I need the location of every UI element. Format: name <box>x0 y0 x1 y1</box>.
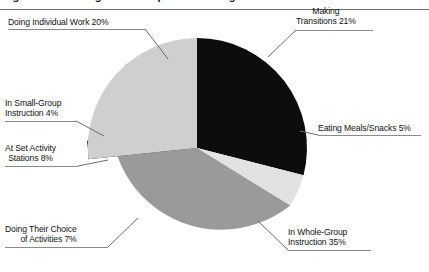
leader-underline-their-choice <box>5 247 108 248</box>
pie-slice-individual-work[interactable] <box>88 38 197 159</box>
leader-underline-making-transitions <box>296 30 373 31</box>
pie-label-small-group-line1: In Small-Group <box>5 98 61 108</box>
leader-underline-individual-work <box>8 29 145 30</box>
pie-label-individual-work-line1: Doing Individual Work 20% <box>8 17 109 27</box>
pie-label-whole-group-line1: In Whole-Group <box>288 227 347 237</box>
leader-underline-set-activity <box>5 166 78 167</box>
leader-line-whole-group <box>258 221 288 250</box>
pie-label-making-transitions-line1: Making <box>296 6 356 16</box>
leader-underline-whole-group <box>288 250 371 251</box>
pie-label-set-activity-line2: Stations 8% <box>5 153 56 163</box>
leader-line-making-transitions <box>268 30 296 57</box>
pie-label-small-group-line2: Instruction 4% <box>5 108 61 118</box>
pie-label-small-group: In Small-Group Instruction 4% <box>5 98 61 119</box>
leader-underline-eating-meals <box>318 135 421 136</box>
pie-label-set-activity: At Set Activity Stations 8% <box>5 143 56 164</box>
pie-label-whole-group: In Whole-Group Instruction 35% <box>288 227 347 248</box>
pie-label-their-choice-line1: Doing Their Choice <box>5 224 77 234</box>
pie-label-individual-work: Doing Individual Work 20% <box>8 17 109 27</box>
pie-label-set-activity-line1: At Set Activity <box>5 143 56 153</box>
pie-label-whole-group-line2: Instruction 35% <box>288 237 347 247</box>
pie-label-eating-meals: Eating Meals/Snacks 5% <box>318 123 411 133</box>
leader-underline-small-group <box>5 121 76 122</box>
pie-label-making-transitions: Making Transitions 21% <box>296 6 356 27</box>
leader-line-set-activity <box>78 160 108 166</box>
pie-label-eating-meals-line1: Eating Meals/Snacks 5% <box>318 123 411 133</box>
pie-label-making-transitions-line2: Transitions 21% <box>296 16 356 26</box>
pie-label-their-choice: Doing Their Choice of Activities 7% <box>5 224 77 245</box>
pie-label-their-choice-line2: of Activities 7% <box>5 234 77 244</box>
leader-line-their-choice <box>108 218 138 247</box>
